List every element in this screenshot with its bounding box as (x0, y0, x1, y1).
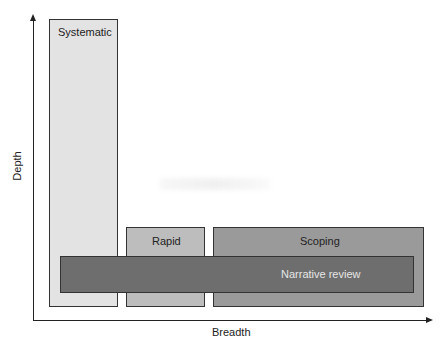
box-rapid-label: Rapid (152, 235, 181, 247)
x-axis-label: Breadth (212, 326, 251, 338)
y-axis-arrow-icon (30, 14, 36, 21)
box-scoping-label: Scoping (300, 235, 340, 247)
box-systematic-label: Systematic (58, 26, 112, 38)
y-axis-label: Depth (11, 151, 23, 180)
box-narrative-review-label: Narrative review (281, 268, 360, 280)
box-narrative-review: Narrative review (60, 256, 414, 293)
y-axis (33, 20, 34, 321)
x-axis-arrow-icon (426, 317, 433, 323)
x-axis (33, 320, 428, 321)
scan-artifact (160, 178, 270, 190)
